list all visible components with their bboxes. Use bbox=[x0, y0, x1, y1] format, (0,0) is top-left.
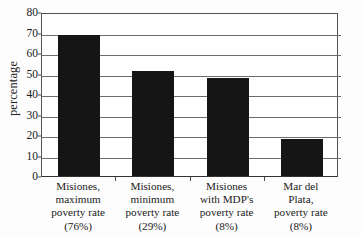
x-axis-category-label-line: Misiones bbox=[190, 180, 264, 193]
x-axis-category-label: Mar delPlata,poverty rate(8%) bbox=[264, 180, 338, 237]
x-axis-category-label-line: poverty rate bbox=[115, 206, 189, 219]
x-axis-category-label-line: poverty rate bbox=[41, 206, 115, 219]
y-axis-tick-label: 70 bbox=[27, 28, 39, 40]
x-axis-category-label-line: (8%) bbox=[264, 220, 338, 233]
y-axis-tick-mark bbox=[38, 54, 41, 55]
x-axis-category-label-line: Misiones, bbox=[115, 180, 189, 193]
x-axis-category-label-line: minimum bbox=[115, 193, 189, 206]
y-axis-tick-label: 80 bbox=[27, 7, 39, 19]
y-axis-tick-label: 40 bbox=[27, 89, 39, 101]
x-axis-category-label-line: Plata, bbox=[264, 193, 338, 206]
y-axis-tick-label: 50 bbox=[27, 69, 39, 81]
y-axis-tick-mark bbox=[38, 13, 41, 14]
bar bbox=[132, 71, 174, 176]
x-axis-category-label-line: maximum bbox=[41, 193, 115, 206]
y-axis-tick-mark bbox=[38, 74, 41, 75]
bar bbox=[58, 35, 100, 176]
x-axis-category-label: Misiones,maximumpoverty rate(76%) bbox=[41, 180, 115, 237]
x-axis-category-label-line: Mar del bbox=[264, 180, 338, 193]
y-axis-tick-label: 30 bbox=[27, 110, 39, 122]
y-axis-tick-label: 10 bbox=[27, 151, 39, 163]
bar bbox=[281, 139, 323, 176]
x-axis-category-label-line: poverty rate bbox=[190, 206, 264, 219]
x-axis-category-label: Misiones,minimumpoverty rate(29%) bbox=[115, 180, 189, 237]
y-axis-tick-mark bbox=[38, 156, 41, 157]
y-axis-tick-mark bbox=[38, 136, 41, 137]
x-axis-category-label-line: (29%) bbox=[115, 220, 189, 233]
y-axis-tick-label: 20 bbox=[27, 130, 39, 142]
y-axis-tick-label: 60 bbox=[27, 48, 39, 60]
x-axis-tick-mark bbox=[190, 177, 191, 181]
x-axis-category-label: Misioneswith MDP'spoverty rate(8%) bbox=[190, 180, 264, 237]
x-axis-category-label-line: Misiones, bbox=[41, 180, 115, 193]
x-axis-tick-mark bbox=[115, 177, 116, 181]
x-axis-category-labels: Misiones,maximumpoverty rate(76%)Misione… bbox=[41, 180, 338, 237]
bar bbox=[207, 78, 249, 176]
x-axis-category-label-line: with MDP's bbox=[190, 193, 264, 206]
y-axis-tick-mark bbox=[38, 177, 41, 178]
y-axis-tick-labels: 80706050403020100 bbox=[20, 13, 38, 177]
x-axis-category-label-line: poverty rate bbox=[264, 206, 338, 219]
bar-chart-figure: percentage 80706050403020100 Misiones,ma… bbox=[0, 0, 363, 237]
x-axis-category-label-line: (8%) bbox=[190, 220, 264, 233]
y-axis-tick-mark bbox=[38, 115, 41, 116]
x-axis-tick-mark bbox=[264, 177, 265, 181]
y-axis-tick-mark bbox=[38, 33, 41, 34]
plot-area bbox=[41, 13, 338, 177]
y-axis-tick-mark bbox=[38, 95, 41, 96]
x-axis-category-label-line: (76%) bbox=[41, 220, 115, 233]
